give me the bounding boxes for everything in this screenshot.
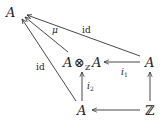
label-id-right: id — [82, 25, 91, 35]
svg-text:⊗: ⊗ — [74, 55, 85, 70]
label-id-bottom: id — [36, 62, 45, 72]
node-a-top: A — [5, 5, 15, 20]
arrow-id-right — [27, 15, 140, 56]
svg-text:ℤ: ℤ — [85, 64, 90, 72]
node-a-bottom: A — [76, 103, 86, 118]
svg-text:A: A — [62, 55, 72, 70]
label-mu: μ — [52, 25, 58, 35]
node-z: ℤ — [145, 103, 155, 118]
svg-text:1: 1 — [124, 71, 128, 78]
node-a-tensor-a: A ⊗ ℤ A — [62, 55, 101, 72]
svg-text:A: A — [91, 55, 101, 70]
label-i1: i 1 — [121, 67, 128, 78]
label-i2: i 2 — [87, 81, 94, 92]
svg-text:2: 2 — [90, 85, 94, 92]
node-a-right: A — [144, 55, 154, 70]
commutative-diagram: A A ⊗ ℤ A A A ℤ i 1 i 2 μ id id — [0, 0, 162, 127]
